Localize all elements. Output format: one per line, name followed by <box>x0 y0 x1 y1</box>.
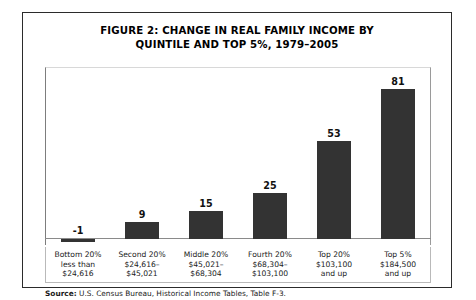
source-note: Source: U.S. Census Bureau, Historical I… <box>45 289 445 298</box>
figure-title: FIGURE 2: CHANGE IN REAL FAMILY INCOME B… <box>41 24 433 51</box>
category-label-line: Top 5% <box>366 250 430 260</box>
source-text: U.S. Census Bureau, Historical Income Ta… <box>77 289 286 298</box>
category-label-line: Bottom 20% <box>46 250 110 260</box>
category-label-line: $45,021 <box>110 269 174 279</box>
category-label-strip: Bottom 20%less than$24,616Second 20%$24,… <box>45 247 431 283</box>
bar-value-label: 81 <box>391 76 404 87</box>
category-label-line: Second 20% <box>110 250 174 260</box>
bar[interactable] <box>125 222 159 239</box>
bar-value-label: 25 <box>263 180 276 191</box>
bar-value-label: 15 <box>199 198 212 209</box>
category-label-line: $103,100 <box>302 260 366 270</box>
category-label: Middle 20%$45,021–$68,304 <box>174 247 238 282</box>
bar-series: -1915255381 <box>46 67 430 245</box>
category-label: Fourth 20%$68,304–$103,100 <box>238 247 302 282</box>
category-label-line: Middle 20% <box>174 250 238 260</box>
bar-chart-plot-area: -1915255381 <box>45 67 431 245</box>
bar-slot: 53 <box>302 67 366 245</box>
bar[interactable] <box>381 89 415 239</box>
bar-value-label: -1 <box>73 225 84 236</box>
category-label-line: less than <box>46 260 110 270</box>
bar-slot: 25 <box>238 67 302 245</box>
bar[interactable] <box>253 193 287 239</box>
category-label-line: $184,500 <box>366 260 430 270</box>
category-label-line: $24,616 <box>46 269 110 279</box>
figure-frame: FIGURE 2: CHANGE IN REAL FAMILY INCOME B… <box>22 12 452 288</box>
category-label-line: Top 20% <box>302 250 366 260</box>
category-label: Second 20%$24,616–$45,021 <box>110 247 174 282</box>
source-label: Source: <box>45 289 77 298</box>
category-label-line: Fourth 20% <box>238 250 302 260</box>
bar-slot: 9 <box>110 67 174 245</box>
category-label-line: and up <box>366 269 430 279</box>
bar[interactable] <box>189 211 223 239</box>
figure-title-line-1: FIGURE 2: CHANGE IN REAL FAMILY INCOME B… <box>41 24 433 38</box>
category-label-line: $103,100 <box>238 269 302 279</box>
category-label-line: $45,021– <box>174 260 238 270</box>
figure-title-line-2: QUINTILE AND TOP 5%, 1979–2005 <box>41 38 433 52</box>
bar-slot: 15 <box>174 67 238 245</box>
category-label: Bottom 20%less than$24,616 <box>46 247 110 282</box>
bar-slot: 81 <box>366 67 430 245</box>
category-label: Top 5%$184,500and up <box>366 247 430 282</box>
category-label-line: $24,616– <box>110 260 174 270</box>
category-label-line: $68,304 <box>174 269 238 279</box>
category-label-line: and up <box>302 269 366 279</box>
bar[interactable] <box>317 141 351 239</box>
bar-value-label: 53 <box>327 128 340 139</box>
bar[interactable] <box>61 239 95 242</box>
category-label-line: $68,304– <box>238 260 302 270</box>
category-label: Top 20%$103,100and up <box>302 247 366 282</box>
bar-slot: -1 <box>46 67 110 245</box>
bar-value-label: 9 <box>139 209 146 220</box>
